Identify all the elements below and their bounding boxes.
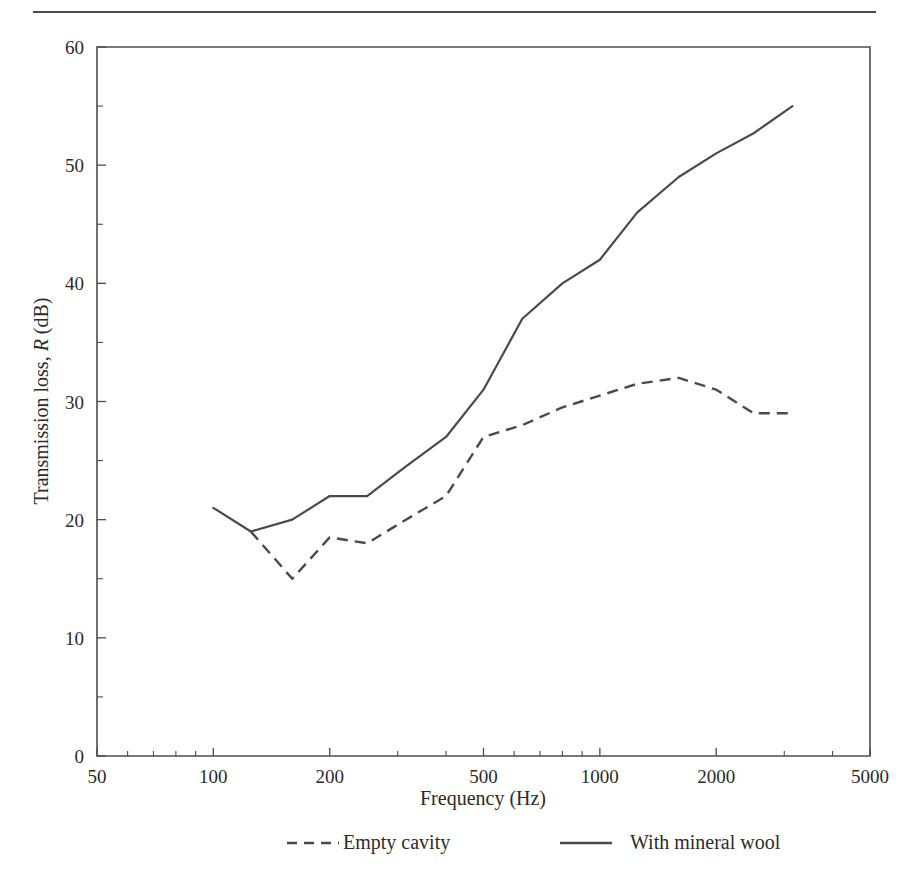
data-series-layer [213, 106, 792, 579]
data-series-empty-cavity [251, 378, 793, 579]
y-axis: 0102030405060 [65, 37, 106, 767]
y-tick-label: 60 [65, 37, 84, 58]
figure-page: 0102030405060 50100200500100020005000 Tr… [0, 0, 905, 884]
x-tick-label: 5000 [851, 766, 889, 787]
y-tick-label: 20 [65, 510, 84, 531]
plot-frame [97, 47, 870, 756]
y-tick-label: 30 [65, 392, 84, 413]
chart-legend: Empty cavityWith mineral wool [287, 831, 781, 854]
y-axis-title-suffix: (dB) [30, 297, 53, 339]
y-axis-title-symbol: R [30, 339, 52, 352]
x-tick-label: 1000 [581, 766, 619, 787]
y-tick-label: 0 [75, 746, 85, 767]
y-tick-label: 50 [65, 155, 84, 176]
x-tick-label: 100 [199, 766, 228, 787]
x-tick-label: 50 [88, 766, 107, 787]
y-tick-label: 10 [65, 628, 84, 649]
x-tick-label: 2000 [697, 766, 735, 787]
x-axis-title: Frequency (Hz) [420, 787, 546, 810]
x-tick-label: 500 [469, 766, 498, 787]
x-tick-label: 200 [315, 766, 344, 787]
svg-text:Transmission loss, R (dB): Transmission loss, R (dB) [30, 297, 53, 504]
y-axis-title-prefix: Transmission loss, [30, 351, 52, 504]
legend-label-empty-cavity: Empty cavity [343, 831, 450, 854]
legend-label-with-mineral-wool: With mineral wool [630, 831, 781, 853]
y-axis-title: Transmission loss, R (dB) [30, 297, 53, 504]
chart-figure: 0102030405060 50100200500100020005000 Tr… [0, 0, 905, 884]
y-tick-label: 40 [65, 273, 84, 294]
x-axis: 50100200500100020005000 [88, 748, 890, 787]
chart-svg: 0102030405060 50100200500100020005000 Tr… [0, 0, 905, 884]
data-series-with-mineral-wool [213, 106, 792, 531]
